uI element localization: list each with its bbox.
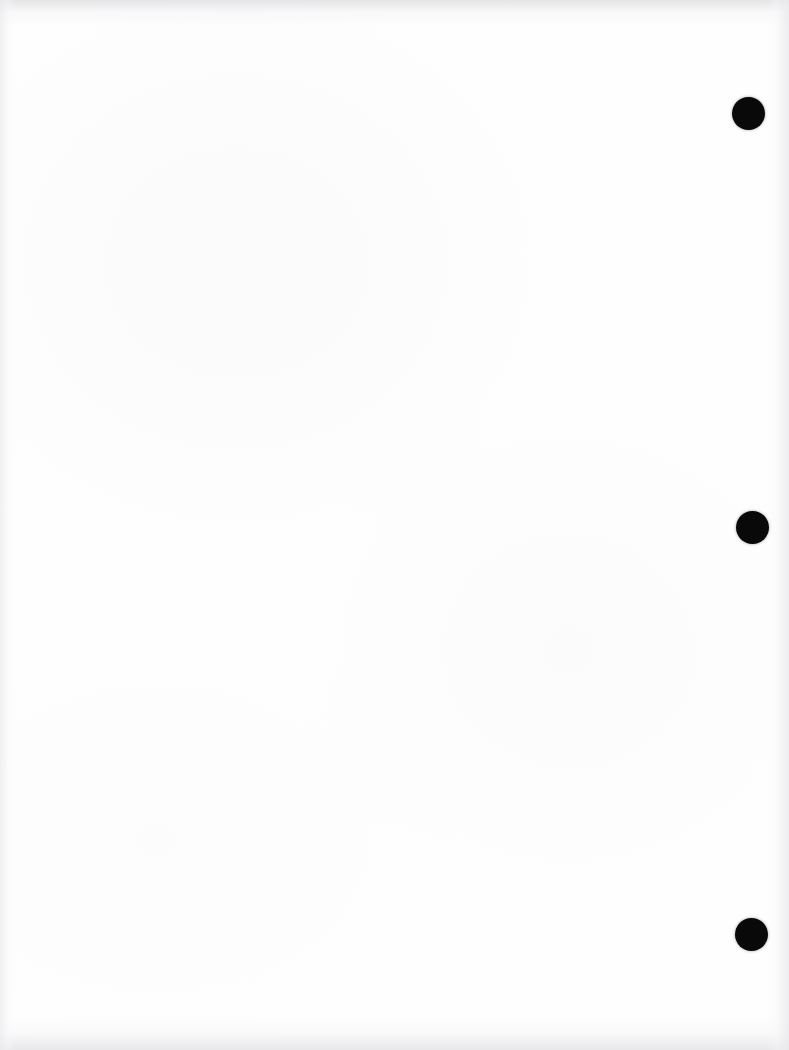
- scanned-page: [0, 0, 789, 1050]
- registration-mark-bottom: [735, 918, 768, 951]
- paper-background: [0, 0, 789, 1050]
- registration-mark-top: [732, 97, 765, 130]
- registration-mark-middle: [736, 511, 769, 544]
